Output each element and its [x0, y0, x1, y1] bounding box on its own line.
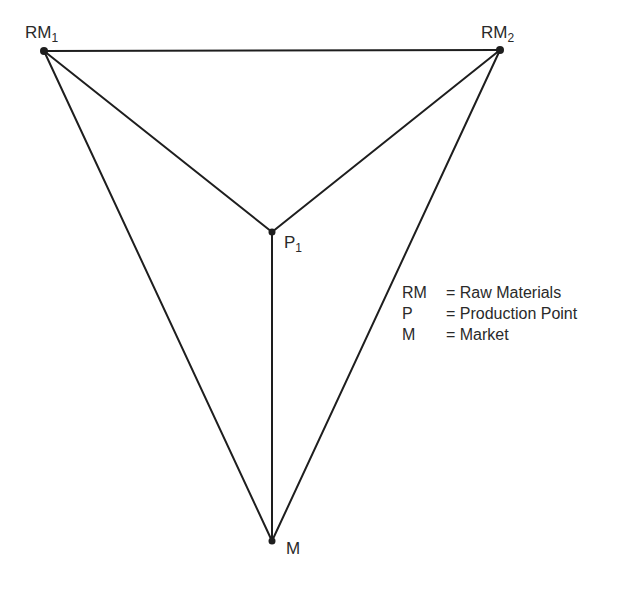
label-rm1-main: RM: [25, 23, 51, 42]
label-m-main: M: [286, 539, 300, 558]
edge-rm1-m: [44, 51, 272, 541]
node-rm1-dot: [40, 47, 48, 55]
edge-rm2-p1: [272, 50, 500, 232]
legend-key: M: [402, 324, 446, 345]
label-rm2-main: RM: [481, 23, 507, 42]
legend-row-m: M = Market: [402, 324, 577, 345]
legend-row-rm: RM = Raw Materials: [402, 282, 577, 303]
location-triangle-diagram: RM1 RM2 P1 M RM = Raw Materials P = Prod…: [0, 0, 633, 594]
label-m: M: [286, 540, 300, 557]
legend: RM = Raw Materials P = Production Point …: [402, 282, 577, 345]
legend-key: P: [402, 303, 446, 324]
legend-value: = Market: [446, 324, 509, 345]
node-p1-dot: [269, 229, 276, 236]
legend-key: RM: [402, 282, 446, 303]
label-rm2: RM2: [481, 24, 514, 44]
label-p1-sub: 1: [295, 241, 302, 255]
label-rm1-sub: 1: [51, 31, 58, 45]
legend-value: = Production Point: [446, 303, 577, 324]
edge-rm1-p1: [44, 51, 272, 232]
edge-rm1-rm2: [44, 50, 500, 51]
node-rm2-dot: [496, 46, 504, 54]
label-p1-main: P: [284, 233, 295, 252]
label-p1: P1: [284, 234, 302, 254]
legend-value: = Raw Materials: [446, 282, 561, 303]
label-rm1: RM1: [25, 24, 58, 44]
node-m-dot: [269, 538, 276, 545]
label-rm2-sub: 2: [507, 31, 514, 45]
legend-row-p: P = Production Point: [402, 303, 577, 324]
